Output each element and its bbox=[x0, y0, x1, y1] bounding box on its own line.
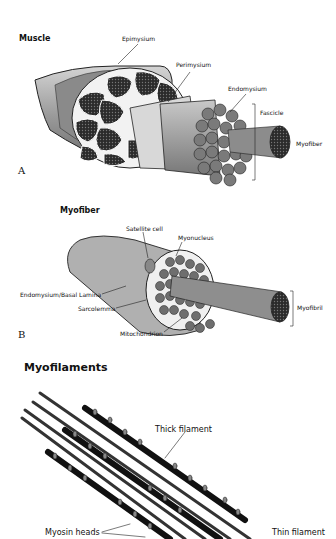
myofiber-label: Myofiber bbox=[296, 140, 322, 147]
myofiber-title: Myofiber bbox=[60, 206, 100, 215]
myofilaments-drawing bbox=[22, 393, 250, 539]
satellite-cell-label: Satellite cell bbox=[126, 225, 163, 232]
panel-letter-a: A bbox=[18, 165, 25, 176]
myofilaments-title: Myofilaments bbox=[24, 361, 108, 374]
endomysium-basal-lamina-label: Endomysium/Basal Lamina bbox=[20, 291, 101, 298]
muscle-anatomy-illustration bbox=[0, 0, 336, 539]
fascicle-label: Fascicle bbox=[260, 109, 283, 116]
myosin-heads-label: Myosin heads bbox=[45, 528, 100, 537]
myofiber-drawing bbox=[68, 232, 293, 336]
thick-filament-label: Thick filament bbox=[155, 425, 212, 434]
panel-letter-b: B bbox=[18, 329, 25, 340]
mitochondrion-label: Mitochondrion bbox=[120, 330, 163, 337]
endomysium-label: Endomysium bbox=[228, 85, 267, 92]
sarcolemma-label: Sarcolemma bbox=[78, 305, 116, 312]
thin-filament-label: Thin filament bbox=[272, 528, 325, 537]
muscle-drawing bbox=[35, 44, 290, 186]
myonucleus-label: Myonucleus bbox=[178, 234, 214, 241]
epimysium-label: Epimysium bbox=[122, 35, 155, 42]
muscle-title: Muscle bbox=[19, 34, 50, 43]
myofibril-label: Myofibril bbox=[297, 304, 323, 311]
perimysium-label: Perimysium bbox=[176, 61, 211, 68]
